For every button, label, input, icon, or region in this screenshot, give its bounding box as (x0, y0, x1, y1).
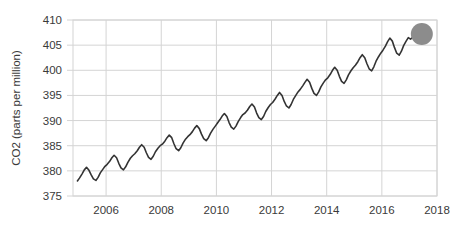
x-tick-labels: 2006200820102012201420162018 (93, 204, 450, 216)
x-tick-label: 2006 (93, 204, 119, 216)
y-tick-label: 380 (43, 165, 62, 177)
x-tick-label: 2008 (148, 204, 174, 216)
co2-line-chart: 375380385390395400405410 200620082010201… (0, 0, 465, 231)
y-tick-label: 385 (43, 140, 62, 152)
y-tick-labels: 375380385390395400405410 (43, 14, 62, 202)
endpoint-marker-group (411, 23, 433, 45)
endpoint-marker (411, 23, 433, 45)
y-axis-title-group: CO2 (parts per million) (10, 50, 22, 166)
x-tick-label: 2010 (204, 204, 230, 216)
x-tick-label: 2012 (259, 204, 285, 216)
x-tick-label: 2014 (314, 204, 340, 216)
y-tick-label: 395 (43, 89, 62, 101)
y-axis-title: CO2 (parts per million) (10, 50, 22, 166)
x-tick-label: 2016 (369, 204, 395, 216)
x-tick-label: 2018 (424, 204, 450, 216)
y-tick-label: 405 (43, 39, 62, 51)
y-tick-label: 410 (43, 14, 62, 26)
y-tick-label: 400 (43, 64, 62, 76)
y-tick-marks (67, 20, 73, 196)
y-tick-label: 390 (43, 115, 62, 127)
y-tick-label: 375 (43, 190, 62, 202)
chart-canvas: 375380385390395400405410 200620082010201… (0, 0, 465, 231)
